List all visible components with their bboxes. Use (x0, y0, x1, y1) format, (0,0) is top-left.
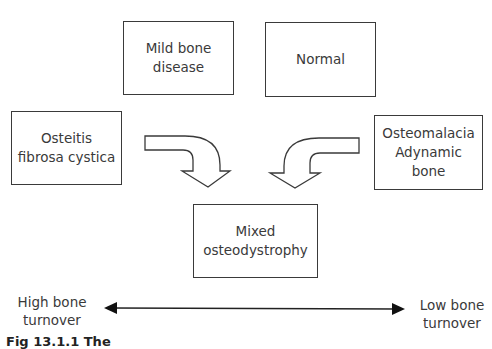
high-bone-turnover-label: High bone turnover (12, 293, 92, 329)
low-bone-turnover-label: Low bone turnover (412, 296, 492, 332)
arrowhead-right-icon (392, 303, 405, 315)
figure-caption: Fig 13.1.1 The (6, 334, 111, 349)
curved-arrow-left-icon (145, 136, 230, 187)
arrowhead-left-icon (104, 302, 117, 314)
turnover-axis-line (112, 308, 397, 309)
curved-arrow-right-icon (270, 138, 359, 188)
